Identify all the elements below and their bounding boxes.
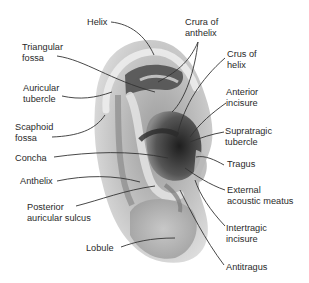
label-tragus: Tragus xyxy=(227,159,255,170)
label-anthelix: Anthelix xyxy=(20,176,53,187)
label-supratragic-tubercle: Supratragic tubercle xyxy=(225,126,272,147)
label-helix: Helix xyxy=(87,17,107,28)
label-external-acoustic-meatus: External acoustic meatus xyxy=(227,185,293,206)
label-scaphoid-fossa: Scaphoid fossa xyxy=(15,122,53,143)
label-posterior-auricular-sulcus: Posterior auricular sulcus xyxy=(27,202,91,223)
label-crus-of-helix: Crus of helix xyxy=(227,49,257,70)
label-intertragic-incisure: Intertragic incisure xyxy=(226,223,267,244)
label-antitragus: Antitragus xyxy=(226,262,267,273)
label-anterior-incisure: Anterior incisure xyxy=(226,87,258,108)
label-auricular-tubercle: Auricular tubercle xyxy=(23,83,59,104)
label-triangular-fossa: Triangular fossa xyxy=(22,42,63,63)
label-crura-of-anthelix: Crura of anthelix xyxy=(185,17,218,38)
label-lobule: Lobule xyxy=(86,243,114,254)
label-concha: Concha xyxy=(15,153,47,164)
ear-anatomy-diagram: Helix Triangular fossa Auricular tubercl… xyxy=(0,0,309,283)
